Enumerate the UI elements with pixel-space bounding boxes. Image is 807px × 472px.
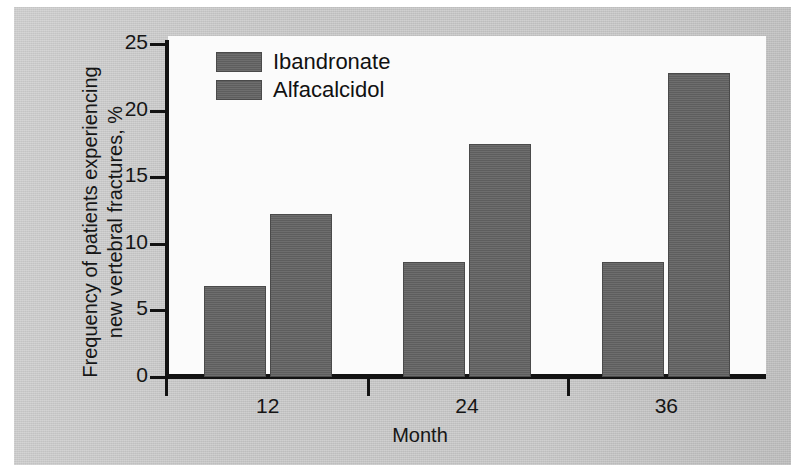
x-axis-tick-label: 36 bbox=[606, 394, 726, 418]
y-axis-tick bbox=[150, 110, 165, 113]
figure-canvas: 0510152025 122436 Month Frequency of pat… bbox=[0, 0, 807, 472]
bar-ibandronate-month-24 bbox=[403, 262, 465, 377]
bar-alfacalcidol-month-12 bbox=[270, 214, 332, 377]
x-axis-tick-label: 24 bbox=[407, 394, 527, 418]
chart-legend: IbandronateAlfacalcidol bbox=[216, 48, 390, 104]
legend-swatch-alfacalcidol bbox=[216, 80, 262, 100]
x-axis-title: Month bbox=[330, 424, 510, 447]
x-axis-tick-label: 12 bbox=[208, 394, 328, 418]
y-axis-tick bbox=[150, 176, 165, 179]
bar-ibandronate-month-36 bbox=[602, 262, 664, 377]
legend-item-alfacalcidol: Alfacalcidol bbox=[216, 76, 390, 103]
x-axis-tick bbox=[567, 379, 570, 396]
y-axis-tick bbox=[150, 43, 165, 46]
legend-swatch-ibandronate bbox=[216, 52, 262, 72]
bar-alfacalcidol-month-36 bbox=[668, 73, 730, 377]
y-axis-tick bbox=[150, 376, 165, 379]
x-axis-tick bbox=[165, 379, 168, 396]
bar-alfacalcidol-month-24 bbox=[469, 144, 531, 377]
y-axis-tick bbox=[150, 243, 165, 246]
y-axis-tick bbox=[150, 309, 165, 312]
legend-label: Alfacalcidol bbox=[273, 79, 384, 101]
bar-ibandronate-month-12 bbox=[204, 286, 266, 377]
x-axis-tick bbox=[367, 379, 370, 396]
y-axis-line bbox=[165, 40, 169, 378]
legend-item-ibandronate: Ibandronate bbox=[216, 48, 390, 75]
legend-label: Ibandronate bbox=[273, 51, 390, 73]
y-axis-title: Frequency of patients experiencing new v… bbox=[78, 42, 128, 402]
